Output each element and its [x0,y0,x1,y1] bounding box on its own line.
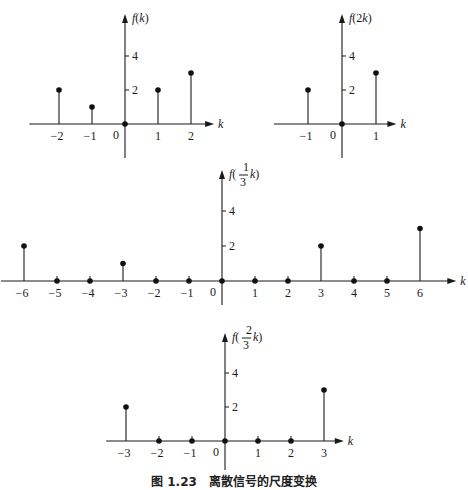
stem-marker [351,278,357,284]
y-tick-label: 2 [232,400,238,414]
x-tick-label: 4 [351,286,357,300]
x-axis-arrow-icon [387,121,396,127]
x-axis-label: k [218,117,224,131]
stem-marker [155,87,161,93]
x-tick-label: 1 [255,446,261,460]
x-tick-label: 3 [321,446,327,460]
figure-caption: 图 1.23 离散信号的尺度变换 [0,472,468,489]
stem-plot-3: kf(13k)240−6−5−4−3−2−1123456 [1,160,466,305]
stem-marker [252,278,258,284]
stem-marker [56,87,62,93]
figure-canvas: kf(k)240−2−112kf(2k)240−11kf(13k)240−6−5… [0,0,468,490]
origin-label: 0 [210,285,216,299]
fraction-numerator: 2 [246,323,252,337]
x-tick-label: 1 [155,129,161,143]
y-tick-label: 2 [132,83,138,97]
y-axis-arrow-icon [219,170,225,179]
y-axis-label: f(2k) [349,11,372,25]
y-tick-label: 2 [349,83,355,97]
y-tick-label: 4 [229,204,235,218]
stem-marker [255,438,261,444]
x-tick-label: 1 [252,286,258,300]
x-tick-label: 2 [188,129,194,143]
stem-marker [156,438,162,444]
y-axis-label: f( [232,330,239,344]
x-tick-label: −1 [300,129,313,143]
x-tick-label: 5 [384,286,390,300]
x-tick-label: 2 [288,446,294,460]
y-tick-label: 4 [132,49,138,63]
x-axis-arrow-icon [447,278,456,284]
x-tick-label: −2 [51,129,64,143]
x-tick-label: −5 [49,286,62,300]
stem-marker [87,278,93,284]
x-axis-label: k [400,117,406,131]
x-tick-label: −1 [84,129,97,143]
stem-marker [219,278,225,284]
stem-marker [189,438,195,444]
x-axis-arrow-icon [205,121,214,127]
y-axis-arrow-icon [222,333,228,342]
stem-marker [21,243,27,249]
stem-marker [384,278,390,284]
x-tick-label: −3 [118,446,131,460]
fraction-numerator: 1 [243,160,249,174]
y-axis-arrow-icon [339,14,345,23]
x-tick-label: −1 [184,446,197,460]
x-tick-label: 2 [285,286,291,300]
stem-marker [288,438,294,444]
origin-label: 0 [213,445,219,459]
fraction-denominator: 3 [240,175,246,189]
fraction-denominator: 3 [243,338,249,352]
stem-marker [89,104,95,110]
x-tick-label: −1 [181,286,194,300]
x-tick-label: 6 [417,286,423,300]
stem-marker [188,70,194,76]
stem-plot-4: kf(23k)240−3−2−1123 [106,323,354,470]
y-axis-label: f( [229,167,236,181]
origin-label: 0 [113,128,119,142]
x-tick-label: −2 [151,446,164,460]
stem-marker [373,70,379,76]
stem-marker [285,278,291,284]
stem-marker [123,404,129,410]
stem-marker [417,226,423,232]
stem-marker [222,438,228,444]
y-axis-label-tail: k) [253,330,262,344]
stem-marker [186,278,192,284]
x-tick-label: 1 [373,129,379,143]
stem-marker [339,121,345,127]
x-tick-label: −6 [16,286,29,300]
y-axis-label: f(k) [132,11,149,25]
origin-label: 0 [330,128,336,142]
stem-marker [321,387,327,393]
stem-marker [153,278,159,284]
stem-marker [305,87,311,93]
stem-marker [318,243,324,249]
x-tick-label: −2 [148,286,161,300]
y-tick-label: 4 [232,366,238,380]
x-axis-arrow-icon [335,438,344,444]
x-tick-label: −3 [115,286,128,300]
stem-marker [54,278,60,284]
x-tick-label: −4 [82,286,95,300]
stem-plot-2: kf(2k)240−11 [274,11,406,158]
y-tick-label: 4 [349,49,355,63]
stem-marker [120,261,126,267]
stem-plot-1: kf(k)240−2−112 [29,11,224,158]
stem-marker [122,121,128,127]
y-axis-label-tail: k) [250,167,259,181]
y-axis-arrow-icon [122,14,128,23]
x-axis-label: k [460,274,466,288]
y-tick-label: 2 [229,239,235,253]
x-tick-label: 3 [318,286,324,300]
x-axis-label: k [348,434,354,448]
